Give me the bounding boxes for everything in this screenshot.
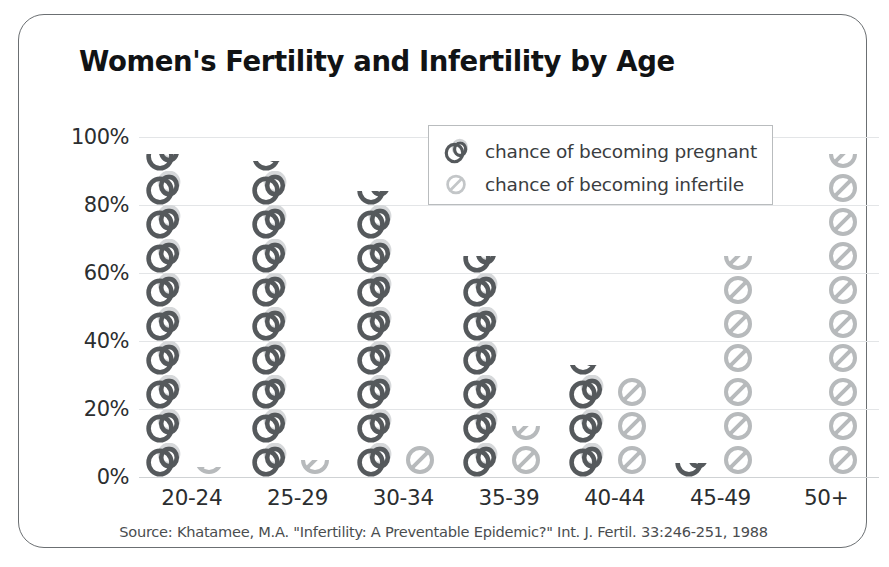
no-entry-icon [295, 460, 335, 477]
no-entry-icon [189, 467, 229, 477]
infertile-icon-stack [400, 446, 440, 477]
no-entry-icon [823, 307, 863, 341]
no-entry-icon [823, 409, 863, 443]
wedding-rings-icon [143, 239, 183, 273]
wedding-rings-icon [143, 171, 183, 205]
pregnant-icon-stack [460, 256, 500, 477]
no-entry-icon [612, 443, 652, 477]
wedding-rings-icon [249, 409, 289, 443]
wedding-rings-icon [460, 443, 500, 477]
infertile-icon-stack [612, 375, 652, 477]
chart-legend: chance of becoming pregnant chance of be… [428, 125, 773, 205]
pregnant-icon-stack [249, 161, 289, 477]
wedding-rings-icon [354, 205, 394, 239]
infertile-icon-stack [506, 426, 546, 477]
no-entry-icon [506, 426, 546, 443]
no-entry-icon [400, 446, 440, 477]
no-entry-icon [823, 341, 863, 375]
no-entry-icon [612, 409, 652, 443]
legend-item-infertile: chance of becoming infertile [441, 169, 744, 199]
wedding-rings-icon [143, 154, 183, 171]
wedding-rings-icon [354, 409, 394, 443]
infertile-icon-stack [823, 154, 863, 477]
chart-column: 25-29 [245, 137, 351, 477]
wedding-rings-icon [566, 443, 606, 477]
wedding-rings-icon [672, 463, 712, 477]
no-entry-icon [823, 273, 863, 307]
infertile-icon-stack [295, 460, 335, 477]
chart-column: 50+ [773, 137, 879, 477]
wedding-rings-icon [143, 307, 183, 341]
legend-label-infertile: chance of becoming infertile [485, 174, 744, 195]
chart-card: Women's Fertility and Infertility by Age… [18, 14, 867, 548]
wedding-rings-icon [441, 138, 471, 165]
y-axis-tick-label: 20% [63, 397, 129, 421]
y-axis-tick-label: 0% [63, 465, 129, 489]
wedding-rings-icon [249, 375, 289, 409]
wedding-rings-icon [143, 341, 183, 375]
chart-title: Women's Fertility and Infertility by Age [79, 45, 799, 77]
legend-label-pregnant: chance of becoming pregnant [485, 141, 757, 162]
wedding-rings-icon [354, 443, 394, 477]
y-axis-tick-label: 100% [63, 125, 129, 149]
no-entry-icon [823, 171, 863, 205]
wedding-rings-icon [460, 341, 500, 375]
wedding-rings-icon [354, 273, 394, 307]
no-entry-icon [718, 409, 758, 443]
no-entry-icon [612, 375, 652, 409]
wedding-rings-icon [249, 205, 289, 239]
wedding-rings-icon [249, 341, 289, 375]
x-axis-tick-label: 50+ [761, 485, 889, 510]
wedding-rings-icon [249, 171, 289, 205]
y-axis-tick-label: 60% [63, 261, 129, 285]
wedding-rings-icon [249, 307, 289, 341]
source-note: Source: Khatamee, M.A. "Infertility: A P… [19, 523, 868, 540]
wedding-rings-icon [143, 273, 183, 307]
wedding-rings-icon [143, 443, 183, 477]
no-entry-icon [441, 171, 471, 198]
no-entry-icon [718, 443, 758, 477]
wedding-rings-icon [460, 409, 500, 443]
wedding-rings-icon [354, 191, 394, 205]
wedding-rings-icon [566, 409, 606, 443]
wedding-rings-icon [354, 375, 394, 409]
wedding-rings-icon [354, 341, 394, 375]
wedding-rings-icon [354, 239, 394, 273]
pregnant-icon-stack [672, 463, 712, 477]
wedding-rings-icon [460, 273, 500, 307]
no-entry-icon [718, 256, 758, 273]
no-entry-icon [823, 154, 863, 171]
no-entry-icon [823, 443, 863, 477]
gridline [139, 477, 879, 478]
wedding-rings-icon [460, 307, 500, 341]
y-axis-tick-label: 80% [63, 193, 129, 217]
no-entry-icon [718, 341, 758, 375]
wedding-rings-icon [460, 375, 500, 409]
wedding-rings-icon [249, 161, 289, 171]
wedding-rings-icon [143, 375, 183, 409]
wedding-rings-icon [354, 307, 394, 341]
y-axis: 0%20%40%60%80%100% [63, 137, 129, 477]
pregnant-icon-stack [566, 365, 606, 477]
no-entry-icon [823, 375, 863, 409]
wedding-rings-icon [143, 409, 183, 443]
no-entry-icon [823, 205, 863, 239]
infertile-icon-stack [189, 467, 229, 477]
chart-column: 20-24 [139, 137, 245, 477]
wedding-rings-icon [460, 256, 500, 273]
wedding-rings-icon [249, 443, 289, 477]
no-entry-icon [823, 239, 863, 273]
wedding-rings-icon [143, 205, 183, 239]
no-entry-icon [718, 273, 758, 307]
wedding-rings-icon [566, 375, 606, 409]
wedding-rings-icon [566, 365, 606, 375]
y-axis-tick-label: 40% [63, 329, 129, 353]
legend-item-pregnant: chance of becoming pregnant [441, 136, 757, 166]
infertile-icon-stack [718, 256, 758, 477]
no-entry-icon [718, 307, 758, 341]
pregnant-icon-stack [143, 154, 183, 477]
no-entry-icon [506, 443, 546, 477]
wedding-rings-icon [249, 273, 289, 307]
no-entry-icon [718, 375, 758, 409]
pregnant-icon-stack [354, 191, 394, 477]
